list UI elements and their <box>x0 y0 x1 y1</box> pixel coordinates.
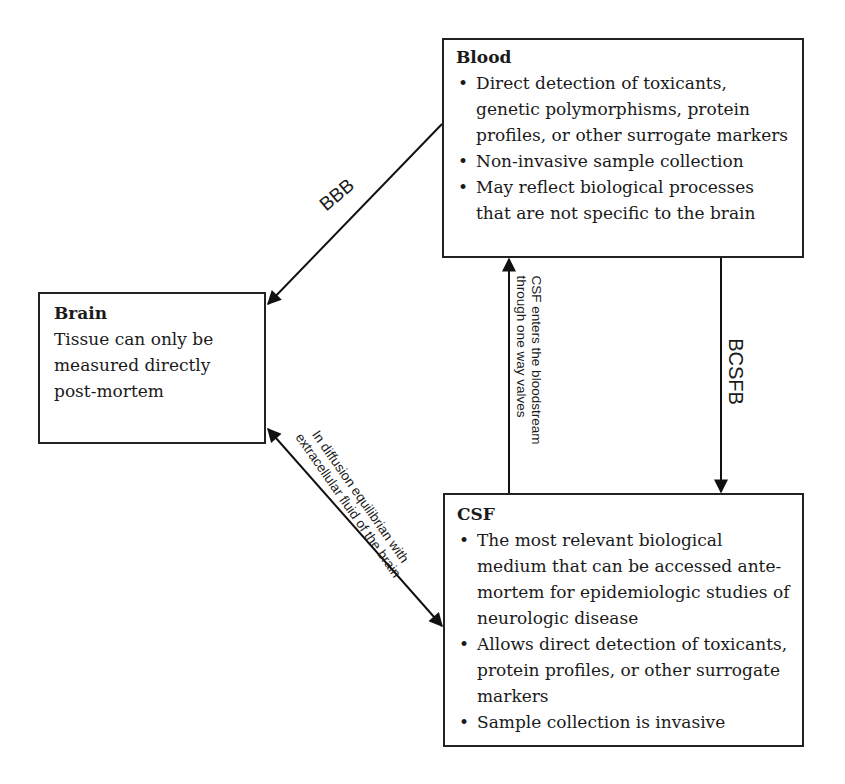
blood-title: Blood <box>456 44 792 70</box>
bcsfb-label: BCSFB <box>724 338 747 405</box>
csf-bullets: The most relevant biological medium that… <box>457 527 792 735</box>
brain-description: Tissue can only be measured directly pos… <box>54 326 254 404</box>
brain-csf-label-line2: extracellular fluid of the brain <box>293 430 404 580</box>
csf-bullet: Sample collection is invasive <box>457 709 792 735</box>
brain-title: Brain <box>54 300 254 326</box>
blood-bullet: Non-invasive sample collection <box>456 148 792 174</box>
csf-bullet: The most relevant biological medium that… <box>457 527 792 631</box>
csf-node: CSF The most relevant biological medium … <box>443 493 804 747</box>
blood-node: Blood Direct detection of toxicants, gen… <box>442 38 804 258</box>
bbb-arrow <box>268 124 442 304</box>
bbb-label: BBB <box>315 174 358 215</box>
blood-bullet: Direct detection of toxicants, genetic p… <box>456 70 792 148</box>
csf-bullet: Allows direct detection of toxicants, pr… <box>457 631 792 709</box>
blood-bullets: Direct detection of toxicants, genetic p… <box>456 70 792 226</box>
brain-csf-label-line1: In diffusion equilibrian with <box>305 422 416 572</box>
csf-to-blood-label-line1: CSF enters the bloodstream <box>529 276 544 445</box>
csf-to-blood-label-line2: through one way valves <box>514 276 529 445</box>
csf-title: CSF <box>457 501 792 527</box>
brain-node: Brain Tissue can only be measured direct… <box>38 292 266 444</box>
blood-bullet: May reflect biological processes that ar… <box>456 174 792 226</box>
csf-to-blood-label: CSF enters the bloodstream through one w… <box>514 276 544 445</box>
brain-csf-label: In diffusion equilibrian with extracellu… <box>293 422 417 581</box>
